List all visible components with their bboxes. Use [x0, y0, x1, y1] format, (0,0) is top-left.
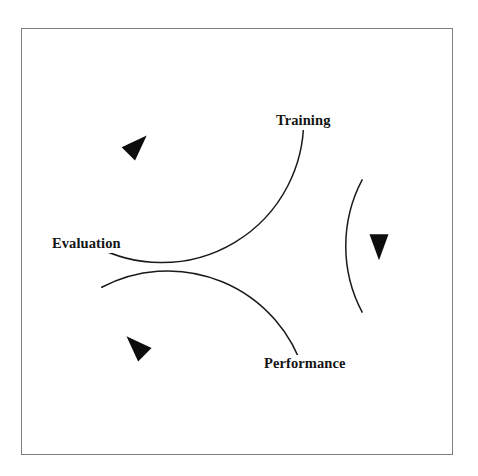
arrowhead-down-right [370, 234, 389, 260]
node-label-performance: Performance [261, 355, 349, 373]
node-label-training: Training [273, 112, 334, 130]
node-label-evaluation: Evaluation [49, 235, 124, 253]
diagram-canvas: Training Performance Evaluation [0, 0, 478, 476]
arrowhead-up-right-top [122, 135, 147, 160]
arrowhead-up-left-bottom [126, 336, 151, 361]
arc-training-to-performance [346, 179, 363, 312]
arc-evaluation-to-training [95, 121, 304, 263]
